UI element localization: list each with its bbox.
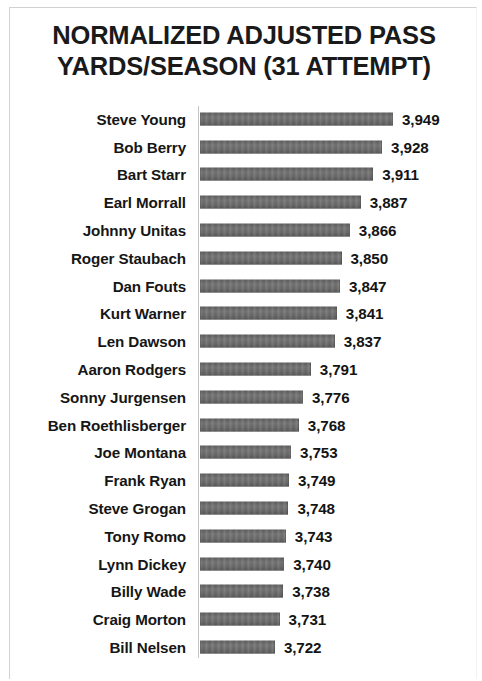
bar-and-label: 3,749	[200, 474, 335, 487]
bar-and-label: 3,768	[200, 418, 345, 431]
category-label: Sonny Jurgensen	[60, 388, 186, 405]
chart-title-line-1: NORMALIZED ADJUSTED PASS	[18, 20, 470, 51]
bar	[200, 418, 299, 431]
bar	[200, 585, 283, 598]
category-label: Bart Starr	[117, 166, 186, 183]
bar-value-label: 3,731	[289, 611, 327, 628]
category-label: Aaron Rodgers	[78, 361, 186, 378]
bar-row: Roger Staubach3,850	[0, 244, 482, 272]
bar-and-label: 3,722	[200, 641, 321, 654]
bar-row: Steve Young3,949	[0, 105, 482, 133]
bar-and-label: 3,743	[200, 529, 332, 542]
category-label: Bob Berry	[113, 138, 186, 155]
bar	[200, 335, 335, 348]
bar-value-label: 3,928	[391, 138, 429, 155]
category-label: Kurt Warner	[100, 305, 186, 322]
category-label: Bill Nelsen	[109, 639, 186, 656]
category-label: Earl Morrall	[104, 194, 186, 211]
bar-value-label: 3,911	[382, 166, 419, 183]
bar	[200, 196, 361, 209]
bar	[200, 224, 350, 237]
bar-value-label: 3,866	[359, 222, 397, 239]
chart-title-line-2: YARDS/SEASON (31 ATTEMPT)	[18, 51, 470, 82]
bar-row: Billy Wade3,738	[0, 578, 482, 606]
bar	[200, 641, 275, 654]
bar-value-label: 3,847	[349, 277, 387, 294]
bar-value-label: 3,743	[295, 527, 333, 544]
bar	[200, 390, 303, 403]
bar-and-label: 3,753	[200, 446, 338, 459]
bar-value-label: 3,740	[293, 555, 331, 572]
bar-row: Tony Romo3,743	[0, 522, 482, 550]
bar	[200, 307, 337, 320]
bar-row: Johnny Unitas3,866	[0, 216, 482, 244]
category-label: Len Dawson	[98, 333, 186, 350]
bar-and-label: 3,776	[200, 390, 350, 403]
category-label: Billy Wade	[111, 583, 186, 600]
category-label: Tony Romo	[105, 527, 187, 544]
category-label: Frank Ryan	[104, 472, 186, 489]
bar	[200, 529, 286, 542]
bar	[200, 251, 342, 264]
bar-row: Sonny Jurgensen3,776	[0, 383, 482, 411]
bar-row: Craig Morton3,731	[0, 605, 482, 633]
bar	[200, 474, 289, 487]
category-label: Ben Roethlisberger	[48, 416, 186, 433]
bar-row: Len Dawson3,837	[0, 327, 482, 355]
bar-value-label: 3,722	[284, 639, 322, 656]
bar-and-label: 3,949	[200, 112, 440, 125]
bar-and-label: 3,911	[200, 168, 419, 181]
bar-and-label: 3,738	[200, 585, 330, 598]
bar-and-label: 3,791	[200, 363, 357, 376]
bar-and-label: 3,731	[200, 613, 326, 626]
bar-row: Frank Ryan3,749	[0, 466, 482, 494]
bar	[200, 279, 340, 292]
bar-and-label: 3,887	[200, 196, 407, 209]
bar-and-label: 3,837	[200, 335, 381, 348]
bar-value-label: 3,791	[320, 361, 358, 378]
bar-row: Steve Grogan3,748	[0, 494, 482, 522]
bar-and-label: 3,928	[200, 140, 429, 153]
category-label: Craig Morton	[93, 611, 186, 628]
bar-row: Bart Starr3,911	[0, 161, 482, 189]
bar-value-label: 3,949	[402, 110, 440, 127]
bar	[200, 557, 284, 570]
bar-value-label: 3,841	[346, 305, 384, 322]
bar-value-label: 3,887	[370, 194, 408, 211]
plot-area: Steve Young3,949Bob Berry3,928Bart Starr…	[0, 104, 482, 666]
category-label: Steve Grogan	[88, 500, 186, 517]
bar-row: Dan Fouts3,847	[0, 272, 482, 300]
bar-value-label: 3,738	[292, 583, 330, 600]
bar-value-label: 3,768	[308, 416, 346, 433]
bar-and-label: 3,866	[200, 224, 396, 237]
bar-and-label: 3,841	[200, 307, 383, 320]
category-label: Roger Staubach	[71, 249, 186, 266]
bar-row: Lynn Dickey3,740	[0, 550, 482, 578]
category-label: Dan Fouts	[113, 277, 186, 294]
bar-row: Bob Berry3,928	[0, 133, 482, 161]
bar-value-label: 3,850	[351, 249, 389, 266]
bar	[200, 446, 291, 459]
category-label: Steve Young	[97, 110, 186, 127]
bar-and-label: 3,850	[200, 251, 388, 264]
bar	[200, 502, 288, 515]
bar-row: Kurt Warner3,841	[0, 300, 482, 328]
bar	[200, 140, 382, 153]
bar-and-label: 3,740	[200, 557, 331, 570]
category-label: Joe Montana	[94, 444, 186, 461]
category-label: Lynn Dickey	[98, 555, 186, 572]
bar	[200, 363, 311, 376]
bar-row: Joe Montana3,753	[0, 439, 482, 467]
bar	[200, 168, 373, 181]
bar-row: Bill Nelsen3,722	[0, 633, 482, 661]
bar-and-label: 3,748	[200, 502, 335, 515]
chart-title: NORMALIZED ADJUSTED PASS YARDS/SEASON (3…	[18, 20, 470, 82]
bar	[200, 613, 280, 626]
bar-row: Ben Roethlisberger3,768	[0, 411, 482, 439]
bar-value-label: 3,776	[312, 388, 350, 405]
bar	[200, 112, 393, 125]
bar-row: Aaron Rodgers3,791	[0, 355, 482, 383]
bar-and-label: 3,847	[200, 279, 386, 292]
bar-row: Earl Morrall3,887	[0, 188, 482, 216]
category-label: Johnny Unitas	[83, 222, 186, 239]
